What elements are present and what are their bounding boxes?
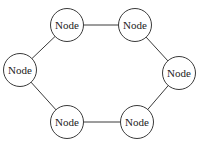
node-right: Node (163, 57, 196, 90)
node-label: Node (55, 116, 79, 128)
node-bottom-left: Node (51, 106, 84, 139)
ring-topology-diagram: NodeNodeNodeNodeNodeNode (0, 0, 203, 147)
node-top-left: Node (51, 9, 84, 42)
node-bottom-right: Node (121, 106, 154, 139)
node-top-right: Node (119, 9, 152, 42)
node-label: Node (125, 116, 149, 128)
diagram-canvas: NodeNodeNodeNodeNodeNode (0, 0, 203, 147)
node-left: Node (4, 54, 37, 87)
node-label: Node (123, 19, 147, 31)
node-label: Node (167, 67, 191, 79)
node-label: Node (8, 64, 32, 76)
node-label: Node (55, 19, 79, 31)
